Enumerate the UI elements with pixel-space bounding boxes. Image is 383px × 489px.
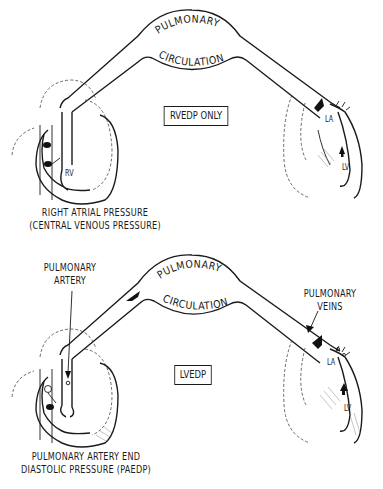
- label-rv: RV: [65, 168, 74, 178]
- diagram-rvedp-only: PULMONARY CIRCULATION RV LA LV RVEDP ONL…: [0, 0, 383, 245]
- caption-top-line2: (CENTRAL VENOUS PRESSURE): [17, 219, 173, 232]
- title-circulation-bottom: CIRCULATION: [161, 292, 229, 312]
- caption-bottom-line2: DIASTOLIC PRESSURE (PAEDP): [15, 463, 156, 476]
- callout-pulmonary-artery-line2: ARTERY: [37, 274, 103, 287]
- label-la-bottom: LA: [327, 357, 335, 367]
- svg-text:PULMONARY: PULMONARY: [155, 257, 224, 280]
- lvedp-box: LVEDP: [174, 365, 211, 385]
- title-pulmonary-bottom: PULMONARY: [155, 257, 224, 280]
- label-lv-top: LV: [342, 162, 349, 172]
- caption-top-line1: RIGHT ATRIAL PRESSURE: [17, 206, 173, 219]
- caption-bottom-line1: PULMONARY ARTERY END: [15, 450, 156, 463]
- label-lv-bottom: LV: [344, 403, 351, 413]
- rvedp-only-box: RVEDP ONLY: [164, 106, 229, 126]
- label-la-top: LA: [325, 114, 333, 124]
- callout-pulmonary-veins-line2: VEINS: [297, 300, 363, 313]
- svg-text:CIRCULATION: CIRCULATION: [161, 292, 229, 312]
- callout-pulmonary-veins-line1: PULMONARY: [297, 287, 363, 300]
- diagram-lvedp: PULMONARY CIRCULATION PULMONARY ARTERY P…: [0, 245, 383, 489]
- callout-pulmonary-artery-line1: PULMONARY: [37, 261, 103, 274]
